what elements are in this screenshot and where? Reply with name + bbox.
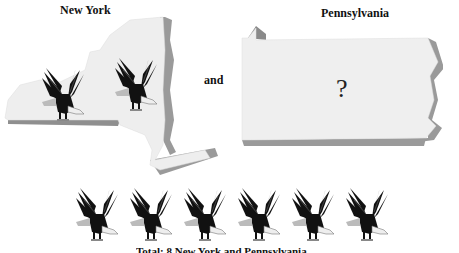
eagle-icon	[344, 188, 390, 244]
unknown-count-question-mark: ?	[336, 74, 348, 104]
eagle-icon	[290, 188, 336, 244]
eagle-icon	[40, 68, 86, 124]
pennsylvania-label: Pennsylvania	[321, 6, 389, 21]
eagle-icon	[113, 58, 159, 114]
eagle-icon	[128, 188, 174, 244]
total-caption: Total: 8 New York and Pennsylvania	[136, 245, 307, 253]
eagle-icon	[236, 188, 282, 244]
eagle-icon	[182, 188, 228, 244]
eagle-icon	[74, 188, 120, 244]
and-label: and	[204, 73, 223, 88]
